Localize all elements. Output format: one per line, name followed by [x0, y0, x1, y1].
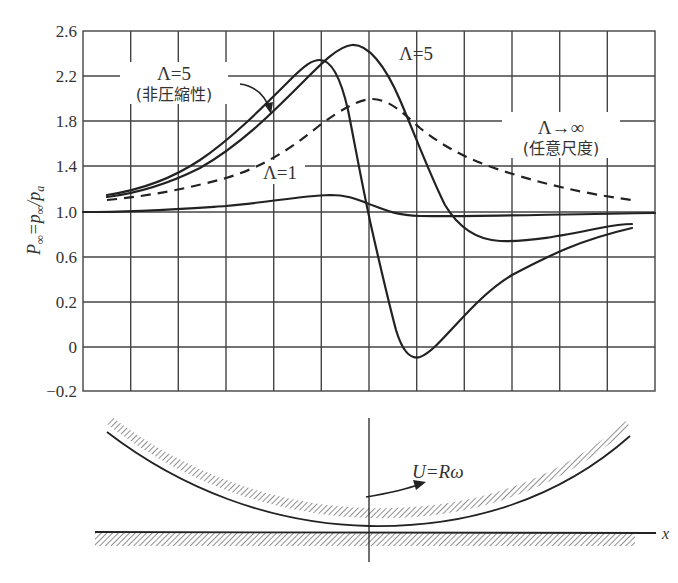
plate-hatch	[95, 532, 635, 546]
y-tick: 1.8	[56, 112, 77, 131]
y-tick: 1.4	[56, 157, 78, 176]
x-axis-label: x	[661, 525, 669, 542]
y-tick: 2.2	[56, 67, 77, 86]
plate-surface	[95, 532, 656, 533]
velocity-label: U=Rω	[412, 461, 464, 482]
y-tick: 0.2	[56, 293, 77, 312]
label-incompressible-main: Λ=5	[157, 63, 191, 84]
y-tick: 0.6	[56, 248, 77, 267]
y-tick: −0.2	[46, 382, 77, 401]
label-lambda-5: Λ=5	[399, 43, 433, 64]
y-tick: 2.6	[56, 22, 77, 41]
y-tick: 1.0	[56, 203, 77, 222]
velocity-arrow	[366, 484, 420, 497]
svg-text:P∞=p∞/pa: P∞=p∞/pa	[24, 186, 47, 256]
label-infinity-main: Λ→∞	[538, 117, 584, 138]
y-axis-ticks: 2.6 2.2 1.8 1.4 1.0 0.6 0.2 0 −0.2	[46, 22, 77, 401]
y-tick: 0	[69, 338, 78, 357]
y-axis-label: P∞=p∞/pa	[24, 186, 47, 256]
label-infinity-sub: (任意尺度)	[523, 139, 599, 158]
label-lambda-1: Λ=1	[263, 162, 297, 183]
label-incompressible-sub: (非圧縮性)	[136, 85, 212, 104]
bearing-diagram: U=Rω x	[95, 417, 669, 562]
figure: 2.6 2.2 1.8 1.4 1.0 0.6 0.2 0 −0.2 P∞=p∞…	[0, 0, 678, 583]
